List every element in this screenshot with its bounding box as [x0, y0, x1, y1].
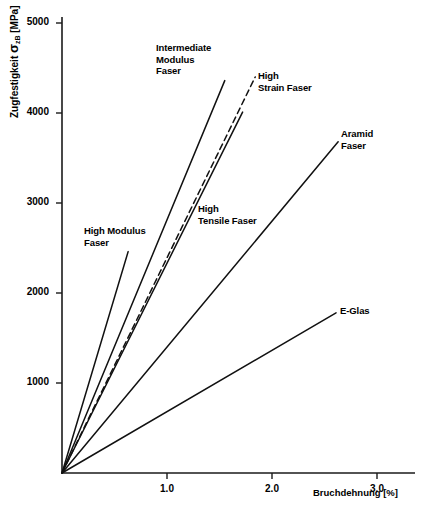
x-tick-label: 2.0 [258, 483, 286, 494]
series-line-1 [62, 81, 225, 473]
series-label-1: Intermediate Modulus Faser [156, 42, 211, 77]
x-tick-label: 3.0 [363, 483, 391, 494]
sigma-subscript: zB [14, 36, 21, 45]
y-axis-unit: [MPa] [9, 6, 20, 36]
y-tick-label: 4000 [21, 106, 49, 117]
y-tick-label: 3000 [21, 196, 49, 207]
series-label-4: Aramid Faser [341, 128, 373, 151]
y-tick-label: 5000 [21, 16, 49, 27]
sigma-symbol: σ [6, 44, 21, 53]
y-axis-title: Zugfestigkeit σzB [MPa] [6, 0, 21, 118]
series-group [62, 77, 338, 473]
y-tick-label: 1000 [21, 376, 49, 387]
x-tick-label: 1.0 [153, 483, 181, 494]
series-label-5: E-Glas [340, 305, 370, 317]
y-axis-title-prefix: Zugfestigkeit [9, 53, 20, 118]
ticks-group [56, 23, 377, 479]
y-tick-label: 2000 [21, 286, 49, 297]
chart-container: Zugfestigkeit σzB [MPa] Bruchdehnung [%]… [0, 0, 426, 512]
series-label-2: High Tensile Faser [198, 203, 257, 226]
series-label-0: High Modulus Faser [84, 225, 146, 248]
plot-area [0, 0, 426, 512]
series-label-3: High Strain Faser [258, 70, 312, 93]
